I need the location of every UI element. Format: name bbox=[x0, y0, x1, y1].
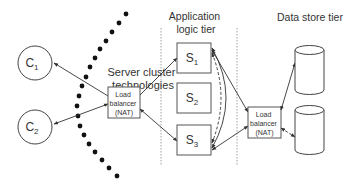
server-s2: S2 bbox=[177, 83, 211, 113]
arrow-rlb-to-db2 bbox=[281, 128, 295, 137]
client-c2: C2 bbox=[18, 110, 52, 144]
load-balancer-left: Load balancer (NAT) bbox=[108, 87, 140, 118]
database-1-icon bbox=[295, 46, 324, 95]
arrow-lb-to-s3 bbox=[140, 109, 177, 141]
data-store-tier-heading: Data store tier bbox=[277, 11, 343, 23]
arrow-lb-to-c1 bbox=[54, 63, 108, 96]
server-s3: S3 bbox=[177, 125, 211, 155]
arrow-s1-s3-curve-dashed bbox=[212, 53, 221, 143]
arrow-rlb-to-db1 bbox=[281, 63, 295, 110]
server-s1: S1 bbox=[177, 43, 211, 73]
database-2-icon bbox=[295, 106, 324, 155]
client-c1: C1 bbox=[18, 46, 52, 80]
arrow-s1-to-rlb bbox=[212, 50, 248, 112]
load-balancer-right: Load balancer (NAT) bbox=[248, 107, 281, 138]
arrow-s1-s3-curve-1 bbox=[212, 48, 226, 148]
arrow-lb-to-c2 bbox=[54, 104, 108, 124]
application-tier-heading: Application logic tier bbox=[169, 10, 223, 35]
three-tier-architecture-diagram: Server cluster technologies Application … bbox=[0, 0, 356, 185]
